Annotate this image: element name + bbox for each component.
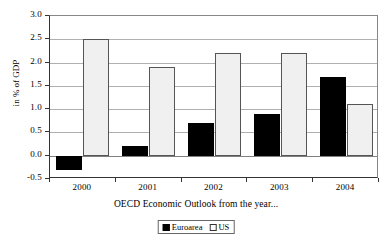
bars-layer — [50, 16, 377, 177]
x-axis-title: OECD Economic Outlook from the year... — [0, 199, 392, 209]
bar-us-2000 — [83, 39, 109, 155]
y-tick-label: 1.0 — [16, 103, 42, 112]
y-tick-label: 1.5 — [16, 80, 42, 89]
x-tick-mark — [246, 178, 247, 182]
y-tick-label: -0.5 — [16, 173, 42, 182]
y-tick-label: 0.5 — [16, 126, 42, 135]
bar-euroarea-2004 — [320, 77, 346, 156]
chart-legend: Euroarea US — [158, 220, 235, 234]
black-square-icon — [163, 224, 170, 231]
x-tick-mark — [378, 178, 379, 182]
bar-euroarea-2003 — [254, 114, 280, 156]
bar-chart: in % of GDP 3.02.52.01.51.00.50.0-0.5 20… — [0, 0, 392, 246]
bar-euroarea-2002 — [188, 123, 214, 156]
y-tick-label: 2.5 — [16, 33, 42, 42]
legend-label-euroarea: Euroarea — [172, 222, 203, 232]
bar-us-2004 — [347, 104, 373, 155]
bar-euroarea-2001 — [122, 146, 148, 155]
legend-item-us: US — [209, 222, 229, 232]
legend-label-us: US — [218, 222, 229, 232]
bar-us-2002 — [215, 53, 241, 155]
x-tick-mark — [49, 178, 50, 182]
x-tick-label: 2002 — [190, 182, 238, 192]
y-tick-label: 3.0 — [16, 10, 42, 19]
plot-area — [49, 15, 378, 178]
x-tick-label: 2003 — [255, 182, 303, 192]
white-square-icon — [209, 224, 216, 231]
bar-euroarea-2000 — [56, 156, 82, 170]
legend-item-euroarea: Euroarea — [163, 222, 203, 232]
bar-us-2001 — [149, 67, 175, 155]
x-tick-label: 2004 — [321, 182, 369, 192]
x-tick-mark — [181, 178, 182, 182]
x-tick-label: 2001 — [124, 182, 172, 192]
y-tick-label: 0.0 — [16, 150, 42, 159]
bar-us-2003 — [281, 53, 307, 155]
x-tick-label: 2000 — [58, 182, 106, 192]
y-tick-label: 2.0 — [16, 57, 42, 66]
x-tick-mark — [115, 178, 116, 182]
x-tick-mark — [312, 178, 313, 182]
